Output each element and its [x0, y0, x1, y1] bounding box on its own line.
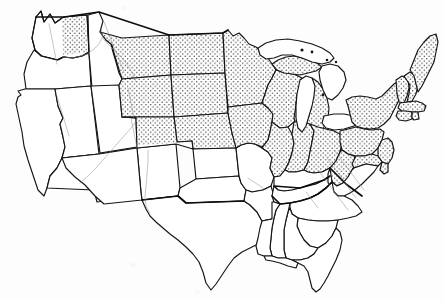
lake-island-huron-2 — [335, 61, 337, 63]
state-iowa[interactable] — [228, 103, 273, 148]
state-north-dakota[interactable] — [169, 33, 225, 75]
lake-island-superior-2 — [311, 51, 314, 54]
state-delaware[interactable] — [380, 162, 388, 174]
state-texas[interactable] — [142, 196, 272, 290]
lake-island-huron-1 — [326, 59, 329, 62]
state-massachusetts[interactable] — [398, 101, 426, 112]
state-arizona-body[interactable] — [62, 148, 142, 204]
state-new-mexico[interactable] — [137, 144, 180, 200]
states-group-stippled-northeast — [330, 34, 438, 186]
state-south-dakota[interactable] — [171, 73, 228, 117]
state-pennsylvania[interactable] — [340, 127, 384, 156]
state-connecticut[interactable] — [396, 111, 412, 121]
lake-island-isle-royale — [300, 48, 303, 51]
state-new-york[interactable] — [346, 80, 404, 129]
state-oklahoma[interactable] — [178, 176, 246, 203]
state-wyoming[interactable] — [119, 75, 174, 117]
state-kansas[interactable] — [193, 148, 239, 179]
states-group-southwest — [62, 148, 142, 204]
lake-island-saginaw — [322, 94, 325, 97]
us-map-figure: Map of the contiguous United States Outl… — [0, 0, 443, 301]
state-rhode-island[interactable] — [412, 112, 419, 120]
us-map-svg — [0, 0, 443, 301]
